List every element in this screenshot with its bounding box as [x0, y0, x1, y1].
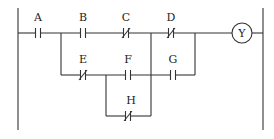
contact-g: G — [169, 53, 178, 80]
contact-b-label: B — [79, 11, 87, 24]
contact-h: H — [124, 94, 136, 121]
contact-f-label: F — [124, 53, 132, 66]
coil-y: Y — [232, 23, 252, 43]
ladder-diagram: A B C D Y E — [0, 0, 274, 139]
contact-d-label: D — [167, 11, 176, 24]
coil-y-label: Y — [237, 27, 246, 40]
contact-b: B — [79, 11, 87, 38]
contact-a-label: A — [33, 11, 43, 24]
contact-g-label: G — [169, 53, 178, 66]
contact-a: A — [33, 11, 43, 38]
contact-e-label: E — [79, 53, 87, 66]
contact-e: E — [79, 53, 87, 80]
contact-c: C — [122, 11, 130, 38]
contact-d: D — [167, 11, 176, 38]
contact-c-label: C — [122, 11, 130, 24]
contact-f: F — [124, 53, 132, 80]
contact-h-label: H — [126, 94, 136, 107]
